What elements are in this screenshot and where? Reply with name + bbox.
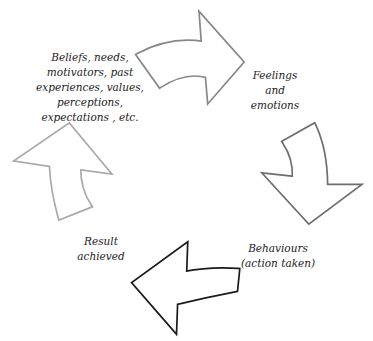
stage-beliefs-line-1: Beliefs, needs, [34, 50, 146, 65]
arrow-right-icon [138, 16, 242, 100]
arrow-left-icon [134, 245, 238, 330]
stage-beliefs-line-5: expectations , etc. [34, 110, 146, 125]
stage-feelings: Feelings and emotions [244, 68, 306, 113]
stage-result-line-1: Result [68, 234, 134, 249]
stage-result: Result achieved [68, 234, 134, 264]
stage-result-line-2: achieved [68, 249, 134, 264]
stage-behaviours: Behaviours (action taken) [234, 241, 322, 271]
cycle-diagram: Beliefs, needs, motivators, past experie… [0, 0, 373, 341]
stage-beliefs-line-2: motivators, past [34, 65, 146, 80]
stage-beliefs: Beliefs, needs, motivators, past experie… [34, 50, 146, 125]
arrow-up-icon [18, 125, 108, 218]
arrow-down-icon [266, 125, 357, 222]
stage-behaviours-line-1: Behaviours [234, 241, 322, 256]
stage-beliefs-line-3: experiences, values, [34, 80, 146, 95]
stage-feelings-line-2: and [244, 83, 306, 98]
stage-feelings-line-1: Feelings [244, 68, 306, 83]
stage-behaviours-line-2: (action taken) [234, 256, 322, 271]
stage-beliefs-line-4: perceptions, [34, 95, 146, 110]
stage-feelings-line-3: emotions [244, 98, 306, 113]
